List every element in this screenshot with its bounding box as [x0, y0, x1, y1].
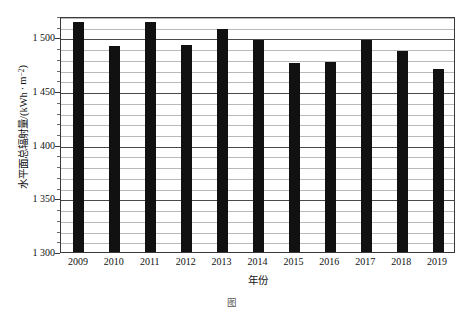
plot-area	[60, 17, 455, 253]
x-tick-label: 2014	[238, 256, 278, 268]
y-tick-mark-major	[55, 253, 60, 254]
bar	[109, 46, 120, 252]
x-tick-label: 2018	[381, 256, 421, 268]
y-tick-label: 1 350	[22, 194, 55, 204]
bar	[181, 45, 192, 252]
bar	[361, 40, 372, 252]
bar	[73, 22, 84, 252]
bar	[433, 69, 444, 252]
grid-line-minor	[61, 29, 454, 30]
x-tick-label: 2013	[202, 256, 242, 268]
x-tick-label: 2017	[345, 256, 385, 268]
bar	[397, 51, 408, 252]
y-tick-label: 1 500	[22, 33, 55, 43]
x-tick-label: 2011	[130, 256, 170, 268]
figure-solar-radiation-bar-chart: 水平面总辐射量/(kWh · m −2 ) 1 3001 3501 4001 4…	[0, 0, 469, 309]
x-axis-tick-labels: 2009201020112012201320142015201620172018…	[60, 256, 455, 270]
x-tick-label: 2019	[417, 256, 457, 268]
bar	[325, 62, 336, 252]
bar	[217, 29, 228, 252]
figure-caption: 图	[0, 297, 469, 309]
grid-line-minor	[61, 18, 454, 19]
x-tick-label: 2016	[309, 256, 349, 268]
bar	[253, 40, 264, 252]
y-tick-label: 1 300	[22, 248, 55, 258]
x-tick-label: 2009	[58, 256, 98, 268]
y-tick-label: 1 450	[22, 87, 55, 97]
bar	[289, 63, 300, 252]
y-axis-tick-labels: 1 3001 3501 4001 4501 500	[22, 0, 55, 309]
x-axis-title: 年份	[60, 272, 455, 287]
y-tick-label: 1 400	[22, 141, 55, 151]
x-tick-label: 2015	[273, 256, 313, 268]
figure-caption-label: 图	[227, 298, 237, 308]
bar	[145, 22, 156, 252]
x-tick-label: 2012	[166, 256, 206, 268]
x-tick-label: 2010	[94, 256, 134, 268]
